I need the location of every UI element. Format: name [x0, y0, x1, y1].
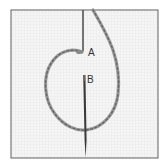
- thread-knot-a: [76, 50, 82, 54]
- needle-eye: [83, 75, 85, 81]
- point-a-label: A: [88, 48, 95, 58]
- diagram-canvas: [0, 0, 163, 165]
- stitch-diagram: A B: [0, 0, 163, 165]
- point-b-label: B: [87, 75, 94, 85]
